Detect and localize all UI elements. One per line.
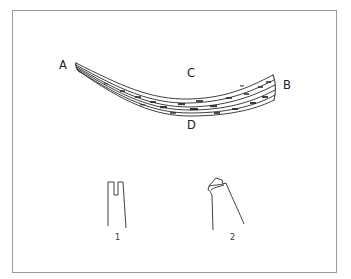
detail-2-number: 2 bbox=[230, 234, 235, 242]
label-b: B bbox=[283, 80, 291, 92]
detail-1-number: 1 bbox=[115, 234, 120, 242]
label-a: A bbox=[59, 60, 67, 72]
detail-sketch-1 bbox=[108, 182, 126, 228]
label-c: C bbox=[187, 68, 195, 80]
fibre-bundle bbox=[76, 63, 276, 116]
detail-sketch-2 bbox=[208, 178, 244, 230]
label-d: D bbox=[187, 120, 196, 132]
fibre-bundle-drawing bbox=[0, 0, 351, 279]
